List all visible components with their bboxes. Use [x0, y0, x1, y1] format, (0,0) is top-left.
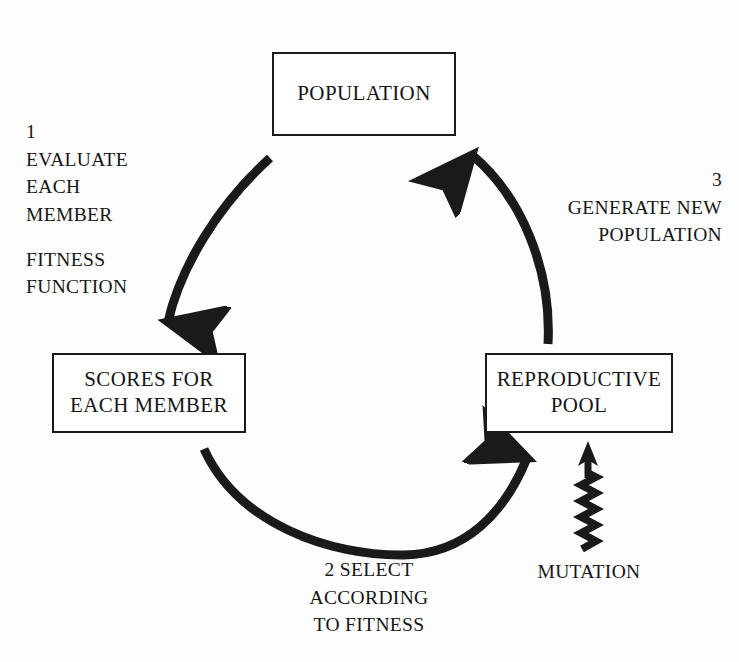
node-scores-line-2: EACH MEMBER — [70, 393, 228, 419]
step-1-line-1: EVALUATE — [26, 146, 128, 174]
caption-step-3-generate: 3 GENERATE NEW POPULATION — [566, 166, 722, 249]
caption-step-2-select: 2 SELECT ACCORDING TO FITNESS — [252, 556, 486, 639]
node-scores-line-1: SCORES FOR — [84, 367, 213, 393]
arrow-mutation-to-pool — [578, 441, 598, 549]
node-reproductive-pool-line-2: POOL — [551, 393, 607, 419]
step-2-line-1: 2 SELECT — [252, 556, 486, 584]
node-reproductive-pool-line-1: REPRODUCTIVE — [497, 367, 662, 393]
arrow-scores-to-pool — [204, 449, 527, 555]
step-2-line-3: TO FITNESS — [252, 611, 486, 639]
step-3-line-2: POPULATION — [566, 221, 722, 249]
caption-step-1-evaluate: 1 EVALUATE EACH MEMBER FITNESS FUNCTION — [26, 118, 128, 301]
caption-spacer — [26, 229, 128, 246]
step-3-line-1: GENERATE NEW — [566, 194, 722, 222]
arrow-population-to-scores — [168, 158, 270, 322]
node-population-line-1: POPULATION — [297, 81, 431, 107]
fitness-function-line-2: FUNCTION — [26, 273, 128, 301]
diagram-canvas: POPULATION SCORES FOR EACH MEMBER REPROD… — [0, 0, 739, 662]
mutation-label: MUTATION — [514, 558, 664, 586]
arrow-pool-to-population — [472, 155, 548, 344]
node-scores-for-each-member[interactable]: SCORES FOR EACH MEMBER — [52, 353, 246, 433]
node-reproductive-pool[interactable]: REPRODUCTIVE POOL — [485, 353, 673, 433]
step-1-line-3: MEMBER — [26, 201, 128, 229]
step-3-number: 3 — [566, 166, 722, 194]
node-population[interactable]: POPULATION — [272, 52, 456, 136]
step-1-number: 1 — [26, 118, 128, 146]
step-1-line-2: EACH — [26, 173, 128, 201]
fitness-function-line-1: FITNESS — [26, 246, 128, 274]
step-2-line-2: ACCORDING — [252, 584, 486, 612]
caption-mutation: MUTATION — [514, 558, 664, 586]
